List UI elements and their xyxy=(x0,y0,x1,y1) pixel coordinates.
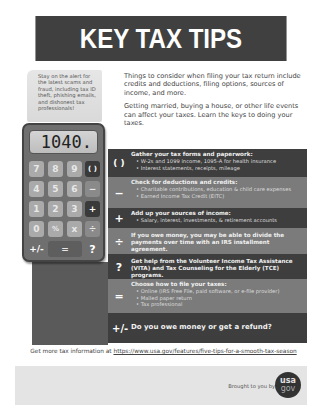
calc-key: % xyxy=(48,221,63,237)
tip-title: Check for deductions and credits: xyxy=(131,179,303,186)
backdrop-panel xyxy=(32,262,108,345)
calc-key: ? xyxy=(85,241,100,257)
calc-key: 0 xyxy=(29,221,44,237)
tip-title: Get help from the Volunteer Income Tax A… xyxy=(131,258,303,279)
calc-key: 1 xyxy=(29,201,44,217)
plus-icon: + xyxy=(112,212,126,225)
question-icon: ? xyxy=(112,260,126,273)
calculator-display: 1040. xyxy=(29,130,98,154)
calc-key: 9 xyxy=(67,161,82,177)
tip-item: W-2s and 1099 income, 1095-A for health … xyxy=(136,158,303,165)
calc-key: 7 xyxy=(29,161,44,177)
intro-paragraph: Things to consider when filing your tax … xyxy=(124,72,304,97)
tip-item: Online (IRS Free File, paid software, or… xyxy=(136,288,303,295)
calc-key: − xyxy=(85,181,100,197)
tip-title: If you owe money, you may be able to div… xyxy=(131,232,303,253)
tip-item: Mailed paper return xyxy=(136,295,303,302)
tip-item: Charitable contributions, education & ch… xyxy=(136,186,303,193)
calc-key: x xyxy=(67,221,82,237)
logo-bottom-text: gov xyxy=(281,385,296,393)
tip-row: = Choose how to file your taxes: Online … xyxy=(108,279,307,313)
calc-key: ( ) xyxy=(85,161,100,177)
intro-paragraph: Getting married, buying a house, or othe… xyxy=(124,102,304,127)
calc-key: +/- xyxy=(29,241,44,257)
tip-row: − Check for deductions and credits: Char… xyxy=(108,177,307,208)
footer: Brought to you by usa gov xyxy=(15,366,307,405)
alert-note: Stay on the alert for the latest scams a… xyxy=(27,70,102,122)
tip-row: +/- Do you owe money or get a refund? xyxy=(108,313,307,343)
parentheses-icon: ( ) xyxy=(112,158,126,168)
usagov-logo-icon: usa gov xyxy=(275,372,301,398)
calc-key: 2 xyxy=(48,201,63,217)
more-info: Get more tax information at https://www.… xyxy=(0,348,327,354)
calc-key: + xyxy=(85,201,100,217)
calc-key: 6 xyxy=(67,181,82,197)
tip-row: + Add up your sources of income: Salary,… xyxy=(108,208,307,228)
intro-text: Things to consider when filing your tax … xyxy=(124,72,304,132)
more-info-link[interactable]: https://www.usa.gov/features/five-tips-f… xyxy=(113,348,296,354)
tip-row: ÷ If you owe money, you may be able to d… xyxy=(108,228,307,254)
calc-key: = xyxy=(48,241,82,257)
minus-icon: − xyxy=(112,186,126,199)
tip-title: Do you owe money or get a refund? xyxy=(131,323,303,332)
tips-list: ( ) Gather your tax forms and paperwork:… xyxy=(108,149,307,343)
tip-item: Earned Income Tax Credit (EITC) xyxy=(136,193,303,200)
calc-key: 4 xyxy=(29,181,44,197)
calc-key: ÷ xyxy=(85,221,100,237)
tip-row: ? Get help from the Volunteer Income Tax… xyxy=(108,254,307,279)
tip-title: Choose how to file your taxes: xyxy=(131,281,303,288)
calc-key: 8 xyxy=(48,161,63,177)
tip-item: Salary, interest, investments, & retirem… xyxy=(136,217,303,224)
calc-key: 5 xyxy=(48,181,63,197)
calculator-illustration: 1040. 7 8 9 ( ) 4 5 6 − 1 2 3 + 0 % x ÷ … xyxy=(22,123,105,262)
tip-item: Interest statements, receipts, mileage xyxy=(136,165,303,172)
tip-title: Add up your sources of income: xyxy=(131,210,303,217)
more-info-prefix: Get more tax information at xyxy=(30,348,113,354)
page-title: KEY TAX TIPS xyxy=(35,16,286,61)
divide-icon: ÷ xyxy=(112,235,126,248)
tip-title: Gather your tax forms and paperwork: xyxy=(131,151,303,158)
tip-row: ( ) Gather your tax forms and paperwork:… xyxy=(108,149,307,177)
brought-to-you-by: Brought to you by xyxy=(228,383,275,389)
tip-item: Tax professional xyxy=(136,301,303,308)
plus-minus-icon: +/- xyxy=(112,323,126,334)
equals-icon: = xyxy=(112,290,126,303)
calc-key: 3 xyxy=(67,201,82,217)
